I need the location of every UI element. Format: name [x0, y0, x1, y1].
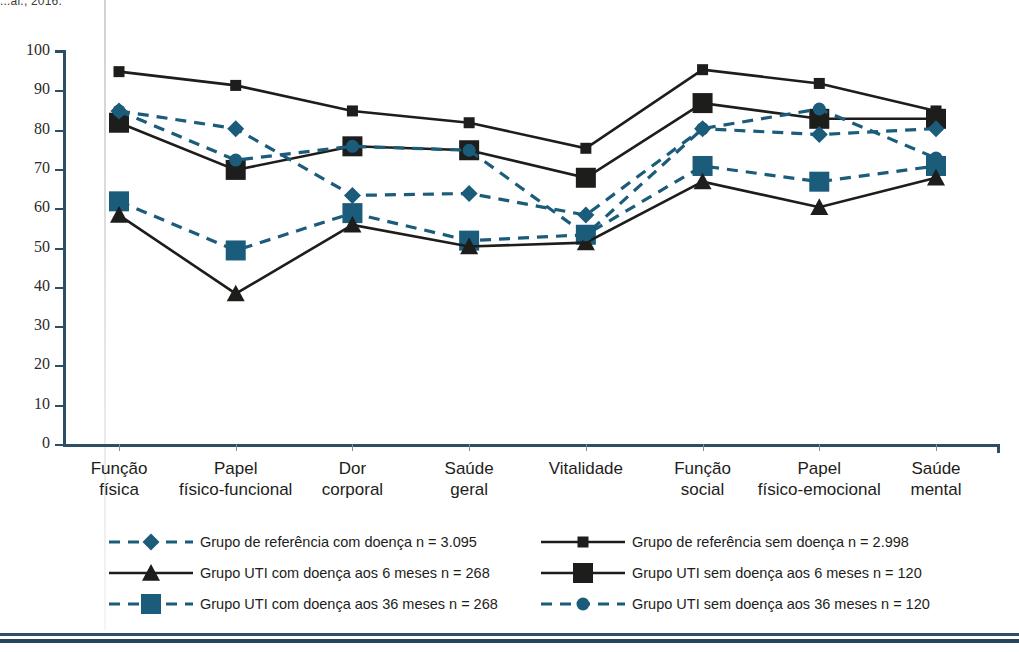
data-point-marker: [343, 216, 361, 233]
data-point-marker: [344, 187, 361, 204]
y-axis-tick: [55, 444, 64, 446]
series-line: [119, 109, 936, 235]
category-label-line: Saúde: [846, 458, 1019, 479]
scan-fold-artifact: [104, 0, 106, 630]
y-axis-tick: [55, 326, 64, 328]
data-point-marker: [576, 225, 596, 245]
legend-label: Grupo UTI com doença aos 6 meses n = 268: [200, 565, 490, 581]
data-point-marker: [694, 173, 712, 190]
data-point-marker: [459, 231, 479, 251]
y-axis-tick-label: 10: [2, 395, 50, 413]
y-axis-tick-label: 80: [2, 120, 50, 138]
x-axis-tick: [236, 444, 237, 451]
y-axis-tick: [55, 51, 64, 53]
legend-label: Grupo UTI sem doença aos 6 meses n = 120: [632, 565, 922, 581]
y-axis-tick: [55, 405, 64, 407]
x-axis-tick: [469, 444, 470, 451]
data-point-marker: [926, 156, 946, 176]
y-axis-labels: 0102030405060708090100: [0, 0, 50, 652]
y-axis-tick-label: 50: [2, 238, 50, 256]
series-line: [119, 166, 936, 250]
x-axis-category-label: Saúdemental: [846, 458, 1019, 500]
chart-page: ...al., 2016. 0102030405060708090100 Fun…: [0, 0, 1019, 652]
series-uti_com_6: [110, 169, 945, 302]
data-point-marker: [226, 160, 246, 180]
legend-item[interactable]: Grupo UTI com doença aos 6 meses n = 268: [108, 559, 490, 587]
legend-label: Grupo de referência sem doença n = 2.998: [632, 534, 909, 550]
data-point-marker: [580, 143, 591, 154]
y-axis-tick: [55, 90, 64, 92]
data-point-marker: [693, 156, 713, 176]
data-point-marker: [810, 198, 828, 215]
legend-item[interactable]: Grupo UTI com doença aos 36 meses n = 26…: [108, 590, 498, 618]
legend-label: Grupo UTI sem doença aos 36 meses n = 12…: [632, 596, 930, 612]
category-label-line: mental: [846, 479, 1019, 500]
chart-legend: Grupo de referência com doença n = 3.095…: [108, 528, 988, 620]
data-point-marker: [227, 120, 244, 137]
y-axis-tick: [55, 208, 64, 210]
y-axis-tick-label: 0: [2, 434, 50, 452]
data-point-marker: [459, 140, 479, 160]
data-point-marker: [230, 80, 241, 91]
legend-item[interactable]: Grupo de referência sem doença n = 2.998: [540, 528, 909, 556]
series-uti_com_36: [109, 156, 946, 260]
data-point-marker: [111, 102, 128, 119]
data-point-marker: [226, 240, 246, 260]
data-point-marker: [227, 285, 245, 302]
data-point-marker: [814, 78, 825, 89]
legend-marker-circle-icon: [540, 593, 626, 615]
data-point-marker: [342, 203, 362, 223]
category-label-line: geral: [379, 479, 559, 500]
series-line: [119, 70, 936, 149]
data-point-marker: [461, 185, 478, 202]
data-point-marker: [696, 122, 709, 135]
legend-marker-square-small-icon: [540, 531, 626, 553]
legend-marker-square-blue-icon: [108, 593, 194, 615]
x-axis-tick: [586, 444, 587, 451]
series-ref_sem: [114, 64, 942, 154]
legend-marker-triangle-icon: [108, 562, 194, 584]
legend-label: Grupo de referência com doença n = 3.095: [200, 534, 477, 550]
x-axis-tick: [703, 444, 704, 451]
x-axis-tick: [936, 444, 937, 451]
data-point-marker: [347, 105, 358, 116]
legend-marker-square-large-icon: [540, 562, 626, 584]
series-uti_sem_36: [113, 102, 943, 241]
legend-label: Grupo UTI com doença aos 36 meses n = 26…: [200, 596, 498, 612]
footer-rule-top: [0, 633, 1019, 636]
data-point-marker: [113, 104, 126, 117]
y-axis-tick-label: 90: [2, 80, 50, 98]
data-point-marker: [809, 109, 829, 129]
y-axis-tick-label: 20: [2, 355, 50, 373]
data-point-marker: [811, 126, 828, 143]
data-point-marker: [926, 109, 946, 129]
y-axis-tick: [55, 169, 64, 171]
legend-marker-diamond-icon: [108, 531, 194, 553]
footer-rule-bottom: [0, 639, 1019, 643]
x-axis-end-cap: [997, 444, 1000, 453]
y-axis-tick-label: 30: [2, 316, 50, 334]
data-point-marker: [463, 144, 476, 157]
series-uti_sem_6: [109, 93, 946, 188]
y-axis-tick-label: 40: [2, 277, 50, 295]
data-point-marker: [109, 191, 129, 211]
data-point-marker: [809, 172, 829, 192]
data-point-marker: [346, 140, 359, 153]
data-point-marker: [813, 102, 826, 115]
legend-item[interactable]: Grupo de referência com doença n = 3.095: [108, 528, 477, 556]
x-axis-line: [63, 444, 1000, 447]
series-ref_com: [111, 102, 945, 223]
series-line: [119, 178, 936, 294]
y-axis-tick: [55, 365, 64, 367]
series-line: [119, 103, 936, 178]
data-point-marker: [577, 207, 594, 224]
legend-item[interactable]: Grupo UTI sem doença aos 36 meses n = 12…: [540, 590, 930, 618]
y-axis-tick-label: 70: [2, 159, 50, 177]
data-point-marker: [693, 93, 713, 113]
legend-item[interactable]: Grupo UTI sem doença aos 6 meses n = 120: [540, 559, 922, 587]
data-point-marker: [464, 117, 475, 128]
x-axis-tick: [819, 444, 820, 451]
data-point-marker: [577, 234, 595, 251]
data-point-marker: [579, 228, 592, 241]
data-point-marker: [576, 168, 596, 188]
